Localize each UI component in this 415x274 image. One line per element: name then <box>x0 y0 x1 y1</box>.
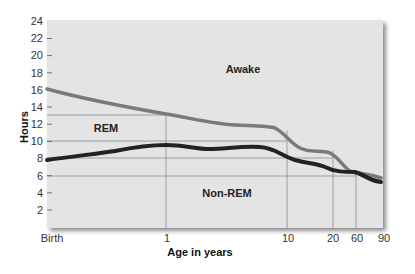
y-tick-12: 12 <box>31 118 43 130</box>
y-tick-20: 20 <box>31 49 43 61</box>
y-tick-16: 16 <box>31 84 43 96</box>
y-tick-22: 22 <box>31 32 43 44</box>
x-tick-60: 60 <box>351 232 363 244</box>
y-tick-14: 14 <box>31 101 43 113</box>
x-tick-1: 1 <box>164 232 170 244</box>
x-axis-labels: Birth 1 10 20 60 90 <box>41 232 390 244</box>
y-tick-10: 10 <box>31 135 43 147</box>
y-axis-labels: 24 22 20 18 16 14 12 10 8 6 4 2 <box>31 15 43 216</box>
y-tick-18: 18 <box>31 67 43 79</box>
awake-label: Awake <box>226 63 261 75</box>
nonrem-label: Non-REM <box>202 187 252 199</box>
y-tick-6: 6 <box>37 170 43 182</box>
y-tick-4: 4 <box>37 187 43 199</box>
x-tick-10: 10 <box>282 232 294 244</box>
y-tick-8: 8 <box>37 152 43 164</box>
y-axis-title: Hours <box>18 111 30 143</box>
x-tick-birth: Birth <box>41 232 64 244</box>
x-tick-20: 20 <box>327 232 339 244</box>
x-tick-90: 90 <box>378 232 390 244</box>
y-tick-2: 2 <box>37 204 43 216</box>
rem-label: REM <box>94 122 118 134</box>
y-tick-24: 24 <box>31 15 43 27</box>
sleep-chart: 24 22 20 18 16 14 12 10 8 6 4 2 Hours Bi… <box>0 0 415 274</box>
x-axis-title: Age in years <box>167 246 232 258</box>
